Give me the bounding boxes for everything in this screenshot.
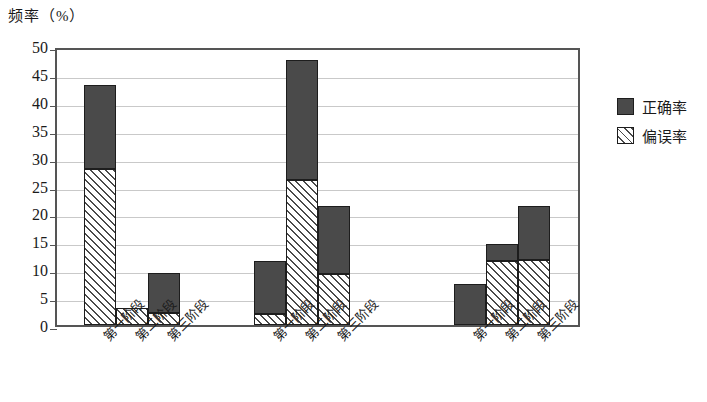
y-axis-tick-label: 25	[8, 180, 48, 196]
y-axis-tick	[50, 217, 57, 218]
y-axis-tick	[50, 301, 57, 302]
y-axis-tick-label: 5	[8, 291, 48, 307]
legend-label: 偏误率	[642, 125, 687, 146]
stacked-bar[interactable]	[84, 85, 116, 325]
bar-segment-error-rate[interactable]	[84, 169, 116, 325]
y-axis-tick-label: 15	[8, 235, 48, 251]
bar-segment-accuracy-rate[interactable]	[84, 85, 116, 169]
y-axis-tick-label: 30	[8, 152, 48, 168]
y-axis-tick	[50, 78, 57, 79]
legend-item[interactable]: 偏误率	[617, 121, 687, 150]
legend-item[interactable]: 正确率	[617, 92, 687, 121]
bar-segment-accuracy-rate[interactable]	[518, 206, 550, 260]
y-axis-tick	[50, 245, 57, 246]
legend-swatch-hatch	[617, 127, 634, 144]
bar-chart: 频率（%） 50454035302520151050 第一阶段第二阶段第三阶段第…	[0, 0, 707, 402]
bar-segment-accuracy-rate[interactable]	[286, 60, 318, 180]
y-axis-tick-label: 20	[8, 207, 48, 223]
stacked-bar[interactable]	[254, 261, 286, 325]
y-axis-tick	[50, 190, 57, 191]
y-axis-tick	[50, 134, 57, 135]
y-axis-tick-label: 45	[8, 68, 48, 84]
y-axis-tick	[50, 273, 57, 274]
stacked-bar[interactable]	[286, 60, 318, 325]
y-axis-tick-labels: 50454035302520151050	[0, 48, 48, 327]
y-axis-tick	[50, 106, 57, 107]
y-axis-tick-label: 35	[8, 124, 48, 140]
y-axis-tick	[50, 50, 57, 51]
bar-segment-accuracy-rate[interactable]	[254, 261, 286, 314]
legend-swatch-solid	[617, 98, 634, 115]
y-axis-tick-label: 10	[8, 263, 48, 279]
y-axis-tick-label: 0	[8, 319, 48, 335]
y-axis-tick-label: 40	[8, 96, 48, 112]
bar-segment-accuracy-rate[interactable]	[486, 244, 518, 262]
legend: 正确率偏误率	[617, 92, 687, 150]
y-axis-title: 频率（%）	[8, 4, 86, 25]
bar-segment-accuracy-rate[interactable]	[318, 206, 350, 274]
y-axis-tick	[50, 162, 57, 163]
x-axis-tick-labels: 第一阶段第二阶段第三阶段第一阶段第二阶段第三阶段第一阶段第二阶段第三阶段	[55, 329, 580, 402]
plot-area	[55, 48, 580, 327]
legend-label: 正确率	[642, 96, 687, 117]
y-axis-tick-label: 50	[8, 40, 48, 56]
